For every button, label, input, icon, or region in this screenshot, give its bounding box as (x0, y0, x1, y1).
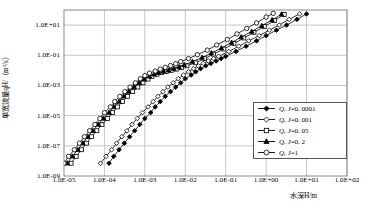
x-tick-label: 1.0E-01 (214, 176, 237, 184)
x-tick-label: 1.0E+02 (335, 176, 360, 184)
y-axis-title: 单宽流量qH/（m³/s） (0, 16, 13, 156)
legend-item-label: Q, J=0. 2 (278, 138, 305, 146)
x-tick-label: 1.0E-03 (133, 176, 156, 184)
legend-item[interactable]: Q, J=0. 2 (254, 136, 346, 147)
x-axis-title: 水深H/m (290, 190, 317, 200)
legend-marker-open-diamond-icon (256, 114, 278, 125)
x-axis-tick-labels: 1.0E-051.0E-041.0E-031.0E-021.0E-011.0E+… (0, 176, 373, 190)
legend-item[interactable]: Q, J=0. 0001 (254, 103, 346, 114)
legend-item[interactable]: Q, J=1 (254, 147, 346, 158)
legend-item-label: Q, J=1 (278, 149, 298, 157)
legend-marker-open-square-icon (256, 125, 278, 136)
x-tick-label: 1.0E-04 (93, 176, 116, 184)
legend-item-label: Q, J=0. 001 (278, 116, 312, 124)
legend-item-label: Q, J=0. 0001 (278, 105, 316, 113)
y-tick-label: 1.0E-03 (37, 81, 60, 89)
x-tick-label: 1.0E-05 (52, 176, 75, 184)
chart-legend: Q, J=0. 0001Q, J=0. 001Q, J=0. 05Q, J=0.… (253, 102, 347, 159)
x-tick-label: 1.0E+01 (294, 176, 319, 184)
y-tick-label: 1.0E+01 (35, 21, 60, 29)
y-axis-title-text: 单宽流量qH/（m³/s） (1, 53, 10, 119)
x-tick-label: 1.0E+00 (254, 176, 279, 184)
x-tick-label: 1.0E-02 (174, 176, 197, 184)
x-axis-title-text: 水深H/m (290, 191, 317, 200)
y-tick-label: 1.0E-01 (37, 51, 60, 59)
legend-item[interactable]: Q, J=0. 05 (254, 125, 346, 136)
legend-marker-open-circle-icon (256, 147, 278, 158)
legend-item-label: Q, J=0. 05 (278, 127, 309, 135)
legend-marker-filled-diamond-icon (256, 103, 278, 114)
chart-figure: 1.0E-091.0E-071.0E-051.0E-031.0E-011.0E+… (0, 0, 373, 209)
legend-item[interactable]: Q, J=0. 001 (254, 114, 346, 125)
legend-marker-filled-triangle-icon (256, 136, 278, 147)
y-tick-label: 1.0E-07 (37, 142, 60, 150)
y-tick-label: 1.0E-05 (37, 112, 60, 120)
